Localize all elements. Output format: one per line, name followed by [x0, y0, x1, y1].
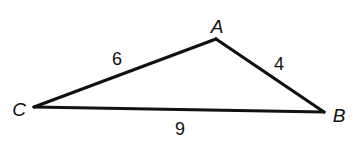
- vertex-label-c: C: [12, 99, 26, 120]
- vertex-label-a: A: [210, 16, 224, 37]
- side-cb: [34, 107, 324, 112]
- triangle-diagram: A C B 6 4 9: [0, 0, 358, 150]
- side-label-cb: 9: [175, 119, 185, 139]
- side-label-ab: 4: [274, 54, 284, 74]
- side-ca: [34, 39, 216, 107]
- side-length-labels: 6 4 9: [112, 49, 284, 139]
- triangle: [34, 39, 324, 112]
- vertex-label-b: B: [333, 105, 346, 126]
- side-label-ca: 6: [112, 49, 122, 69]
- side-ab: [216, 39, 324, 112]
